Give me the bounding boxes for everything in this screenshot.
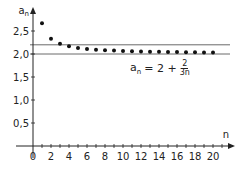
y-tick-label: 1,0	[13, 95, 29, 106]
x-tick-label: 12	[135, 151, 148, 162]
data-point	[76, 46, 80, 50]
x-axis-label: n	[223, 129, 229, 140]
data-point	[103, 48, 107, 52]
data-point	[58, 42, 62, 46]
x-tick-label: 2	[48, 151, 54, 162]
x-tick-label: 14	[153, 151, 166, 162]
data-point	[211, 50, 215, 54]
data-point	[157, 50, 161, 54]
data-point	[184, 50, 188, 54]
y-tick-label: 2,0	[13, 49, 29, 60]
data-point	[94, 48, 98, 52]
data-point	[49, 37, 53, 41]
sequence-chart: 024681012141618200,51,01,52,02,5ann	[0, 0, 243, 173]
data-point	[166, 50, 170, 54]
x-axis-arrow-icon	[228, 143, 235, 149]
data-point	[202, 50, 206, 54]
data-point	[112, 49, 116, 53]
x-tick-label: 16	[171, 151, 184, 162]
x-tick-label: 4	[66, 151, 72, 162]
data-point	[130, 49, 134, 53]
y-tick-label: 0,5	[13, 118, 29, 129]
y-axis-label: an	[18, 5, 29, 18]
data-point	[67, 44, 71, 48]
x-tick-label: 20	[207, 151, 220, 162]
y-tick-label: 2,5	[13, 26, 29, 37]
x-tick-label: 10	[117, 151, 130, 162]
formula-label: an = 2 + 23n	[130, 60, 190, 77]
data-point	[148, 50, 152, 54]
x-tick-label: 0	[30, 151, 36, 162]
data-point	[193, 50, 197, 54]
x-tick-label: 6	[84, 151, 90, 162]
y-tick-label: 1,5	[13, 72, 29, 83]
data-point	[40, 21, 44, 25]
x-tick-label: 18	[189, 151, 202, 162]
data-point	[139, 49, 143, 53]
data-point	[85, 47, 89, 51]
data-point	[121, 49, 125, 53]
x-tick-label: 8	[102, 151, 108, 162]
data-point	[175, 50, 179, 54]
y-axis-arrow-icon	[30, 7, 36, 14]
